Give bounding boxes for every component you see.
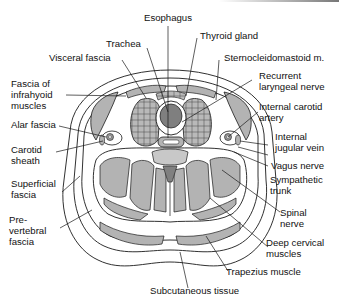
thyroid-lobe-left [131, 99, 160, 147]
vertebral-body [152, 149, 188, 165]
deep-muscle-6 [174, 168, 186, 212]
deep-muscle-5 [186, 160, 210, 210]
deep-muscle-4 [210, 158, 240, 198]
label-prevertebral-fascia: Pre- vertebral fascia [9, 214, 46, 247]
esophagus-lumen [163, 140, 179, 144]
label-recurrent-laryngeal-nerve: Recurrent laryngeal nerve [259, 70, 325, 92]
deep-muscle-2 [130, 160, 154, 210]
label-subcutaneous-tissue: Subcutaneous tissue [150, 285, 239, 296]
label-fascia-infrahyoid: Fascia of infrahyoid muscles [11, 78, 53, 111]
label-visceral-fascia: Visceral fascia [49, 52, 111, 63]
label-vagus-nerve: Vagus nerve [271, 160, 324, 171]
label-spinal-nerve: Spinal nerve [280, 207, 307, 229]
label-alar-fascia: Alar fascia [11, 119, 56, 130]
label-carotid-sheath: Carotid sheath [11, 144, 42, 166]
label-thyroid-gland: Thyroid gland [200, 30, 258, 41]
deep-muscle-3 [154, 168, 166, 212]
label-sympathetic-trunk: Sympathetic trunk [270, 174, 323, 196]
label-sternocleidomastoid: Sternocleidomastoid m. [224, 52, 324, 63]
label-esophagus: Esophagus [144, 12, 192, 23]
deep-muscle-1 [100, 158, 130, 198]
label-superficial-fascia: Superficial fascia [11, 178, 56, 200]
thyroid-lobe-right [182, 99, 211, 147]
label-internal-jugular-vein: Internal jugular vein [275, 131, 324, 153]
label-internal-carotid-artery: Internal carotid artery [259, 101, 322, 123]
trachea-lumen [160, 104, 182, 128]
label-trapezius-muscle: Trapezius muscle [226, 266, 301, 277]
neck-cross-section-diagram: Esophagus Trachea Thyroid gland Visceral… [0, 0, 339, 298]
label-trachea: Trachea [106, 38, 141, 49]
carotid-sheath-right [220, 131, 241, 145]
label-deep-cervical-muscles: Deep cervical muscles [266, 237, 324, 259]
